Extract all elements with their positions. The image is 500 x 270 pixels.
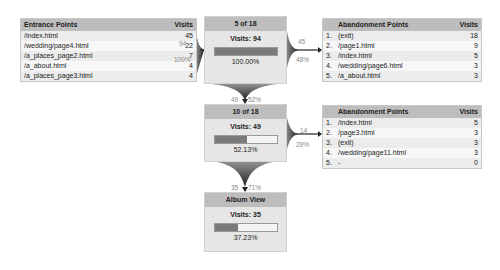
- page-link[interactable]: /a_about.html: [338, 71, 462, 81]
- visits-value: 5: [462, 118, 478, 128]
- table-header: Entrance Points Visits: [21, 19, 196, 31]
- page-link[interactable]: (exit): [338, 138, 462, 148]
- page-link[interactable]: /a_places_page3.html: [24, 71, 177, 81]
- funnel-step-goal[interactable]: Album View Visits: 35 37.23%: [204, 192, 287, 252]
- visits-value: 18: [462, 31, 478, 41]
- visits-value: 5: [462, 51, 478, 61]
- row-index: 3.: [326, 138, 338, 148]
- column-header-visits: Visits: [174, 19, 193, 31]
- visits-value: 0: [462, 158, 478, 168]
- table-body: /index.html45 /wedding/page4.html22 /a_p…: [21, 31, 196, 81]
- visits-value: 3: [462, 71, 478, 81]
- page-link[interactable]: (exit): [338, 31, 462, 41]
- entrance-points-table: Entrance Points Visits /index.html45 /we…: [20, 18, 197, 82]
- row-index: 1.: [326, 118, 338, 128]
- row-index: 2.: [326, 128, 338, 138]
- next-pct: 52%: [248, 96, 261, 103]
- page-link[interactable]: /index.html: [338, 51, 462, 61]
- step-title: 5 of 18: [205, 17, 286, 31]
- step-visits: Visits: 94: [205, 35, 286, 44]
- table-row[interactable]: 4./wedding/page11.html3: [323, 148, 481, 158]
- exit-count: 14: [300, 127, 307, 134]
- entrance-flow-pct: 100%: [174, 56, 191, 63]
- row-index: 4.: [326, 148, 338, 158]
- table-header: Abandonment Points Visits: [323, 19, 481, 31]
- visits-value: 3: [462, 138, 478, 148]
- table-row[interactable]: 2./page1.html9: [323, 41, 481, 51]
- table-row[interactable]: 4./wedding/page6.html3: [323, 61, 481, 71]
- page-link[interactable]: /wedding/page6.html: [338, 61, 462, 71]
- visits-value: 3: [462, 148, 478, 158]
- page-link[interactable]: /index.html: [338, 118, 462, 128]
- table-row[interactable]: /wedding/page4.html22: [21, 41, 196, 51]
- progress-bar: [214, 135, 278, 144]
- progress-bar: [214, 47, 278, 56]
- visits-value: 9: [462, 41, 478, 51]
- progress-bar: [214, 223, 278, 232]
- exit-count: 45: [298, 38, 305, 45]
- row-index: 4.: [326, 61, 338, 71]
- table-row[interactable]: /a_places_page2.html7: [21, 51, 196, 61]
- visits-value: 3: [462, 128, 478, 138]
- funnel-step-1[interactable]: 5 of 18 Visits: 94 100.00%: [204, 16, 287, 84]
- table-row[interactable]: 1./index.html5: [323, 118, 481, 128]
- table-row[interactable]: /index.html45: [21, 31, 196, 41]
- row-index: 1.: [326, 31, 338, 41]
- table-row[interactable]: /a_about.html4: [21, 61, 196, 71]
- abandonment-points-table-1: Abandonment Points Visits 1.(exit)18 2./…: [322, 18, 482, 82]
- page-link[interactable]: /wedding/page4.html: [24, 41, 177, 51]
- entrance-flow-count: 94: [179, 40, 186, 47]
- step-visits: Visits: 35: [205, 211, 286, 220]
- step-percentage: 37.23%: [205, 234, 286, 243]
- page-link[interactable]: /index.html: [24, 31, 177, 41]
- exit-pct: 48%: [296, 56, 309, 63]
- page-link[interactable]: /a_about.html: [24, 61, 177, 71]
- next-count: 35: [231, 184, 238, 191]
- step-title: Album View: [205, 193, 286, 207]
- table-body: 1.(exit)18 2./page1.html9 3./index.html5…: [323, 31, 481, 81]
- row-index: 3.: [326, 51, 338, 61]
- table-row[interactable]: 5./a_about.html3: [323, 71, 481, 81]
- visits-value: 3: [462, 61, 478, 71]
- column-header-page: Abandonment Points: [338, 19, 459, 31]
- step-title: 10 of 18: [205, 105, 286, 119]
- column-header-page: Entrance Points: [24, 19, 174, 31]
- table-row[interactable]: 1.(exit)18: [323, 31, 481, 41]
- next-count: 49: [231, 96, 238, 103]
- visits-value: 4: [177, 71, 193, 81]
- page-link[interactable]: /page1.html: [338, 41, 462, 51]
- next-pct: 71%: [248, 184, 261, 191]
- row-index: 5.: [326, 158, 338, 168]
- table-row[interactable]: /a_places_page3.html4: [21, 71, 196, 81]
- table-body: 1./index.html5 2./page3.html3 3.(exit)3 …: [323, 118, 481, 168]
- step-percentage: 52.13%: [205, 146, 286, 155]
- step-visits: Visits: 49: [205, 123, 286, 132]
- page-link[interactable]: /wedding/page11.html: [338, 148, 462, 158]
- table-row[interactable]: 3.(exit)3: [323, 138, 481, 148]
- step-percentage: 100.00%: [205, 58, 286, 67]
- table-row[interactable]: 3./index.html5: [323, 51, 481, 61]
- column-header-visits: Visits: [459, 106, 478, 118]
- table-row[interactable]: 2./page3.html3: [323, 128, 481, 138]
- exit-pct: 29%: [296, 141, 309, 148]
- page-link[interactable]: /a_places_page2.html: [24, 51, 177, 61]
- column-header-page: Abandonment Points: [338, 106, 459, 118]
- table-row[interactable]: 5.-0: [323, 158, 481, 168]
- funnel-step-2[interactable]: 10 of 18 Visits: 49 52.13%: [204, 104, 287, 162]
- page-link[interactable]: -: [338, 158, 462, 168]
- row-index: 5.: [326, 71, 338, 81]
- column-header-visits: Visits: [459, 19, 478, 31]
- page-link[interactable]: /page3.html: [338, 128, 462, 138]
- row-index: 2.: [326, 41, 338, 51]
- abandonment-points-table-2: Abandonment Points Visits 1./index.html5…: [322, 105, 482, 169]
- table-header: Abandonment Points Visits: [323, 106, 481, 118]
